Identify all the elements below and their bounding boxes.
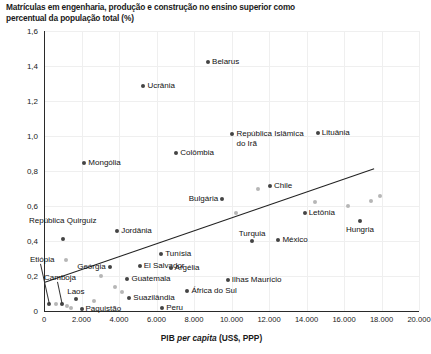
data-point[interactable] <box>125 277 129 281</box>
data-point-label: Peru <box>166 303 183 312</box>
data-point-label: Jordânia <box>121 226 152 235</box>
data-point-label: Mongólia <box>88 158 120 167</box>
data-point-label: Laos <box>67 287 84 296</box>
data-point[interactable] <box>276 238 280 242</box>
data-point[interactable] <box>54 302 58 306</box>
gridline-horizontal <box>44 101 419 102</box>
data-point[interactable] <box>369 199 373 203</box>
x-axis-tick-label: 6.000 <box>147 315 166 324</box>
x-axis-tick-label: 14.000 <box>295 315 318 324</box>
gridline-horizontal <box>44 31 419 32</box>
data-point[interactable] <box>268 184 272 188</box>
data-point[interactable] <box>141 84 145 88</box>
x-axis-tick-label: 4.000 <box>109 315 128 324</box>
data-point-label: República Quirguiz <box>24 216 102 225</box>
data-point-label: Belarus <box>212 57 239 66</box>
data-point-label: Paquistão <box>86 304 122 313</box>
data-point-label: Etiópia <box>30 255 54 264</box>
data-point-label: Guatemala <box>131 274 170 283</box>
data-point-label: Geórgia <box>77 262 105 271</box>
y-axis-tick-label: 1,0 <box>0 132 38 141</box>
data-point-label: Suazilândia <box>133 293 174 302</box>
data-point-label: Letônia <box>309 208 335 217</box>
data-point[interactable] <box>346 204 350 208</box>
data-point[interactable] <box>256 187 260 191</box>
x-axis-title-tail: (US$, PPP) <box>217 333 263 343</box>
y-axis-line <box>44 31 45 312</box>
data-point[interactable] <box>303 211 307 215</box>
data-point[interactable] <box>206 60 210 64</box>
x-axis-tick-label: 2.000 <box>72 315 91 324</box>
data-point[interactable] <box>69 306 73 310</box>
y-axis-tick-label: 1,6 <box>0 27 38 36</box>
data-point-label: República Islâmica do Irã <box>236 129 314 148</box>
data-point[interactable] <box>174 151 178 155</box>
chart-title: Matrículas em engenharia, produção e con… <box>6 2 336 24</box>
data-point[interactable] <box>74 297 78 301</box>
data-point[interactable] <box>358 219 362 223</box>
data-point-label: Colômbia <box>180 148 214 157</box>
data-point-label: Lituânia <box>322 128 350 137</box>
x-axis-tick-label: 10.000 <box>220 315 243 324</box>
gridline-vertical <box>419 31 420 311</box>
data-point-label: Argélia <box>175 263 200 272</box>
data-point[interactable] <box>80 307 84 311</box>
y-axis-tick-label: 0 <box>0 307 38 316</box>
data-point[interactable] <box>82 161 86 165</box>
data-point[interactable] <box>99 274 103 278</box>
data-point[interactable] <box>92 299 96 303</box>
data-point[interactable] <box>138 264 142 268</box>
data-point[interactable] <box>185 289 189 293</box>
x-axis-tick-label: 16.000 <box>332 315 355 324</box>
x-axis-tick-label: 8.000 <box>184 315 203 324</box>
y-axis-tick-label: 1,2 <box>0 97 38 106</box>
data-point-label: México <box>282 235 307 244</box>
data-point[interactable] <box>159 252 163 256</box>
data-point[interactable] <box>120 290 124 294</box>
data-point[interactable] <box>160 306 164 310</box>
x-axis-tick-label: 18.000 <box>370 315 393 324</box>
data-point[interactable] <box>127 296 131 300</box>
data-point[interactable] <box>250 239 254 243</box>
data-point-label: Chile <box>274 181 292 190</box>
data-point[interactable] <box>316 131 320 135</box>
data-point[interactable] <box>113 285 117 289</box>
data-point[interactable] <box>64 258 68 262</box>
x-axis-tick-label: 0 <box>42 315 46 324</box>
y-axis-tick-label: 0,4 <box>0 237 38 246</box>
data-point-label: Turquia <box>239 229 266 238</box>
data-point[interactable] <box>115 229 119 233</box>
data-point-label: Hungria <box>346 225 374 234</box>
gridline-horizontal <box>44 241 419 242</box>
data-point[interactable] <box>169 266 173 270</box>
data-point-label: África do Sul <box>191 286 236 295</box>
x-axis-tick-label: 20.000 <box>407 315 430 324</box>
x-axis-title-main: PIB <box>161 333 177 343</box>
x-axis-title-emphasis: per capita <box>177 333 217 343</box>
x-axis-title: PIB per capita (US$, PPP) <box>0 333 423 343</box>
data-point[interactable] <box>108 265 112 269</box>
data-point-label: Bulgária <box>189 194 218 203</box>
x-axis-tick-label: 12.000 <box>257 315 280 324</box>
gridline-horizontal <box>44 206 419 207</box>
data-point[interactable] <box>234 211 238 215</box>
y-axis-tick-label: 1,4 <box>0 62 38 71</box>
data-point[interactable] <box>61 237 65 241</box>
data-point-label: Tunísia <box>165 249 191 258</box>
data-point[interactable] <box>220 197 224 201</box>
data-point-label: Camboja <box>44 273 76 282</box>
data-point-label: Ucrânia <box>147 81 175 90</box>
y-axis-tick-label: 0,8 <box>0 167 38 176</box>
data-point[interactable] <box>313 200 317 204</box>
data-point[interactable] <box>230 132 234 136</box>
data-point-label: Ilhas Maurício <box>232 275 282 284</box>
data-point[interactable] <box>226 278 230 282</box>
y-axis-tick-label: 0,2 <box>0 272 38 281</box>
y-axis-tick-label: 0,6 <box>0 202 38 211</box>
gridline-horizontal <box>44 66 419 67</box>
data-point[interactable] <box>378 194 382 198</box>
